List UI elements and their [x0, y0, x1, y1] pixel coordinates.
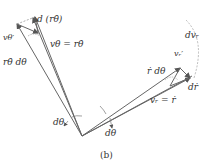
label-dtheta-right: dθ	[105, 128, 117, 138]
label-v-theta-eq: vθ = rθ̇	[50, 39, 84, 49]
label-dtheta-left: dθ	[53, 117, 65, 127]
v-theta-vectors	[17, 17, 82, 136]
figure-caption: (b)	[100, 150, 113, 160]
label-d-r-thetadot: d (rθ̇)	[37, 14, 63, 24]
label-v-theta-prime: vθ′	[3, 33, 14, 42]
label-v-r-prime: vᵣ′	[174, 49, 183, 58]
label-v-r-eq: vᵣ = ṙ	[150, 95, 176, 105]
label-rdot-dtheta: ṙ dθ	[147, 66, 166, 76]
polar-velocity-diagram: d (rθ̇) vθ′ vθ = rθ̇ rθ̇ dθ dvᵣ vᵣ′ ṙ d…	[0, 0, 210, 161]
label-r-thetadot-dtheta: rθ̇ dθ	[3, 57, 27, 67]
label-d-rdot: dṙ	[188, 82, 199, 92]
label-d-v-r: dvᵣ	[185, 30, 199, 40]
v-r-vectors	[82, 20, 199, 136]
